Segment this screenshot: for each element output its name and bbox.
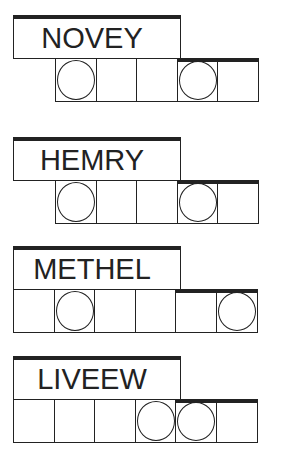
answer-cells (55, 180, 259, 224)
letter-cell[interactable] (217, 58, 259, 102)
letter-cell-circled[interactable] (177, 58, 219, 102)
scrambled-word: METHEL (33, 253, 161, 286)
letter-cell[interactable] (94, 289, 136, 333)
letter-cell[interactable] (13, 399, 55, 443)
letter-cell-circled[interactable] (55, 58, 97, 102)
letter-cell-circled[interactable] (177, 180, 219, 224)
letter-cell-circled[interactable] (135, 399, 177, 443)
letter-cell[interactable] (54, 399, 96, 443)
circle-marker-icon (177, 402, 215, 441)
letter-cell-circled[interactable] (216, 289, 258, 333)
answer-cells (13, 289, 258, 333)
letter-cell[interactable] (94, 399, 136, 443)
letter-cell-circled[interactable] (55, 180, 97, 224)
scrambled-word: HEMRY (40, 144, 154, 177)
circle-marker-icon (179, 61, 217, 100)
letter-cell[interactable] (96, 180, 138, 224)
circle-marker-icon (56, 291, 94, 331)
scrambled-word: NOVEY (41, 22, 153, 55)
answer-cells (13, 399, 258, 443)
scrambled-word-box: HEMRY (13, 137, 181, 181)
letter-cell-circled[interactable] (54, 289, 96, 333)
answer-cells (55, 58, 259, 102)
letter-cell[interactable] (217, 180, 259, 224)
circle-marker-icon (57, 60, 95, 100)
circle-marker-icon (179, 183, 217, 222)
letter-cell-circled[interactable] (175, 399, 217, 443)
letter-cell[interactable] (135, 289, 177, 333)
circle-marker-icon (137, 401, 175, 441)
circle-marker-icon (218, 292, 256, 331)
scrambled-word-box: NOVEY (13, 15, 181, 59)
scrambled-word-box: LIVEEW (13, 356, 181, 400)
scrambled-word-box: METHEL (13, 246, 181, 290)
letter-cell[interactable] (13, 289, 55, 333)
letter-cell[interactable] (136, 58, 178, 102)
letter-cell[interactable] (216, 399, 258, 443)
letter-cell[interactable] (175, 289, 217, 333)
scrambled-word: LIVEEW (37, 363, 157, 396)
circle-marker-icon (57, 182, 95, 222)
letter-cell[interactable] (136, 180, 178, 224)
letter-cell[interactable] (96, 58, 138, 102)
